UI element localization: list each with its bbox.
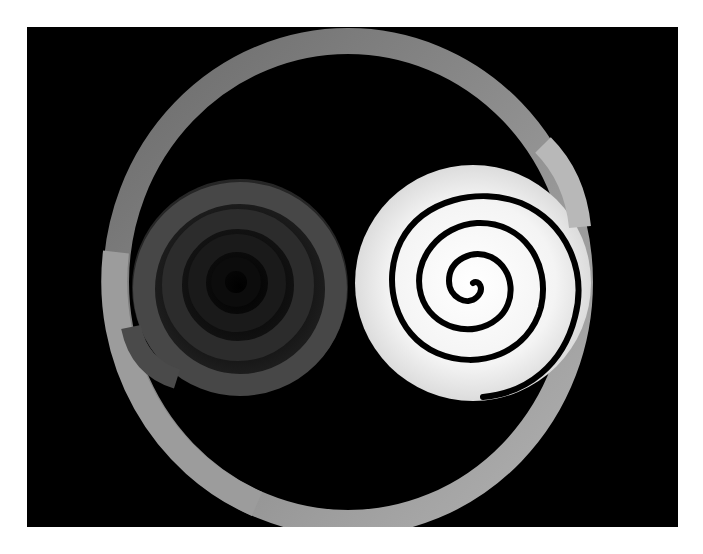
illusion-graphic [27,27,678,527]
illusion-canvas [27,27,678,527]
right-white-spiral [355,165,591,401]
